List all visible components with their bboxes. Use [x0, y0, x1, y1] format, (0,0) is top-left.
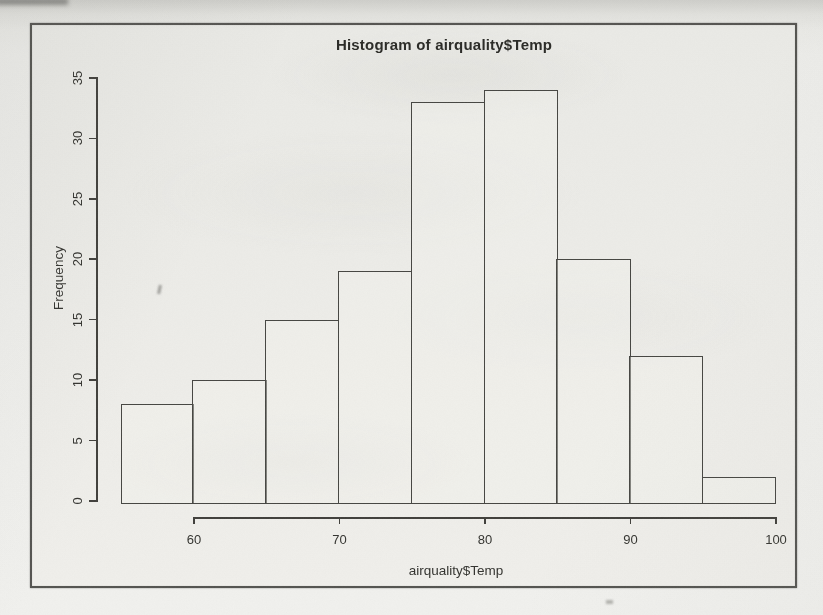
histogram-bar — [411, 102, 485, 504]
x-tick-label: 70 — [332, 533, 346, 546]
histogram-chart: Histogram of airquality$Temp Frequency a… — [0, 0, 823, 615]
x-axis-tick — [339, 517, 341, 524]
y-axis-tick — [89, 379, 96, 381]
x-tick-label: 100 — [765, 533, 787, 546]
y-axis-tick — [89, 500, 96, 502]
histogram-bar — [556, 259, 630, 504]
histogram-bar — [265, 320, 339, 504]
x-tick-label: 90 — [623, 533, 637, 546]
y-axis-line — [96, 77, 98, 502]
y-axis-tick — [89, 319, 96, 321]
y-axis-tick — [89, 440, 96, 442]
y-axis-tick — [89, 198, 96, 200]
photo-artifact-speck — [606, 600, 613, 604]
x-axis-label: airquality$Temp — [409, 563, 504, 578]
y-axis-tick — [89, 258, 96, 260]
y-tick-label: 15 — [71, 312, 84, 326]
y-axis-tick — [89, 138, 96, 140]
x-axis-tick — [484, 517, 486, 524]
histogram-bar — [192, 380, 266, 504]
histogram-bar — [338, 271, 412, 504]
y-tick-label: 5 — [71, 437, 84, 444]
y-axis-label: Frequency — [51, 246, 66, 310]
histogram-bar — [629, 356, 703, 504]
book-page-photo: { "chart_data": { "type": "bar", "varian… — [0, 0, 823, 615]
histogram-bar — [484, 90, 558, 504]
x-axis-tick — [630, 517, 632, 524]
y-axis-tick — [89, 77, 96, 79]
photo-artifact-top-smudge — [0, 0, 68, 5]
chart-title: Histogram of airquality$Temp — [336, 36, 552, 53]
x-axis-tick — [193, 517, 195, 524]
y-tick-label: 10 — [71, 373, 84, 387]
x-tick-label: 80 — [478, 533, 492, 546]
y-tick-label: 30 — [71, 131, 84, 145]
y-tick-label: 0 — [71, 497, 84, 504]
x-axis-tick — [775, 517, 777, 524]
y-tick-label: 25 — [71, 192, 84, 206]
y-tick-label: 20 — [71, 252, 84, 266]
x-tick-label: 60 — [187, 533, 201, 546]
histogram-bar — [702, 477, 776, 504]
y-tick-label: 35 — [71, 71, 84, 85]
histogram-bar — [121, 404, 194, 504]
